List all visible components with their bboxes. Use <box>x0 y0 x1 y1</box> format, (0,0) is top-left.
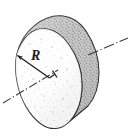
disk-figure: R <box>0 0 131 140</box>
radius-label: R <box>31 49 40 63</box>
disk-illustration-svg <box>0 0 131 140</box>
